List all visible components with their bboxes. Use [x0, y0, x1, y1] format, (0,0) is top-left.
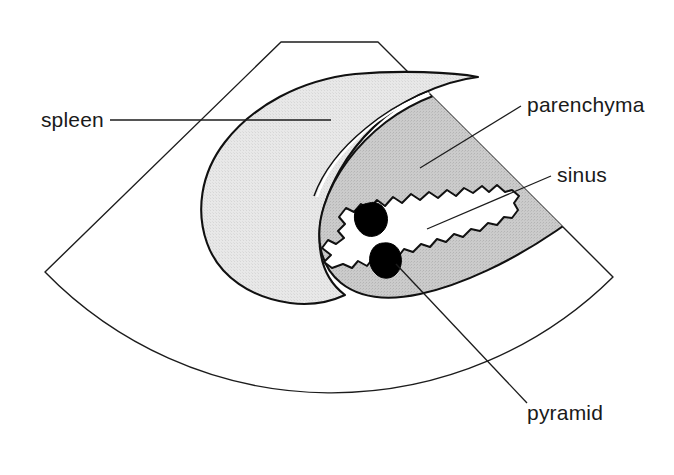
- label-spleen: spleen: [41, 108, 104, 131]
- ultrasound-diagram-canvas: spleen parenchyma sinus pyramid: [0, 0, 674, 475]
- leader-line-pyramid: [396, 264, 527, 403]
- ultrasound-diagram-figure: spleen parenchyma sinus pyramid: [0, 0, 674, 475]
- renal-pyramid-upper: [354, 202, 387, 236]
- label-parenchyma: parenchyma: [527, 93, 645, 116]
- label-sinus: sinus: [557, 163, 607, 186]
- label-pyramid: pyramid: [527, 401, 603, 424]
- renal-pyramid-lower: [370, 243, 402, 278]
